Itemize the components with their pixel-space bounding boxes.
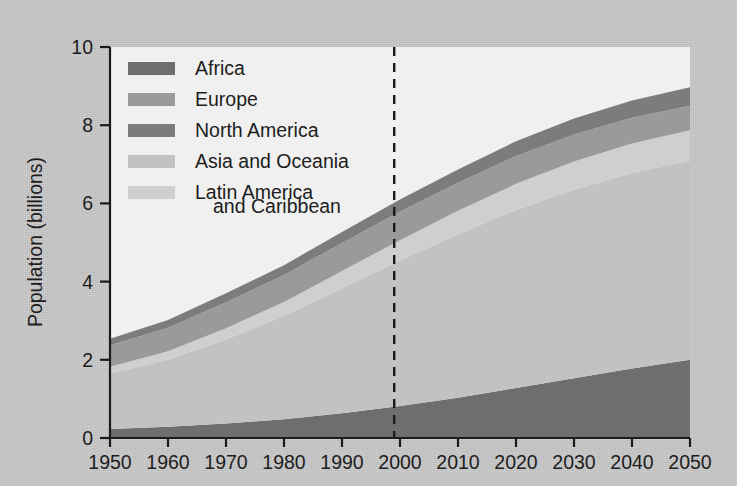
x-tick-label: 2020 [494, 451, 538, 473]
x-axis-ticks: 1950196019701980199020002010202020302040… [88, 438, 712, 473]
legend-swatch-latin-america [128, 186, 175, 199]
y-tick-label: 10 [71, 36, 93, 58]
x-tick-label: 2030 [552, 451, 596, 473]
x-tick-label: 2010 [436, 451, 480, 473]
x-tick-label: 1950 [88, 451, 132, 473]
y-tick-label: 4 [82, 271, 93, 293]
legend-label-asia-and-oceania: Asia and Oceania [195, 150, 349, 172]
chart-canvas: 0246810 19501960197019801990200020102020… [0, 0, 737, 486]
legend-swatch-europe [128, 93, 175, 106]
legend-label-europe: Europe [195, 88, 258, 110]
legend-swatch-africa [128, 62, 175, 75]
x-tick-label: 2050 [668, 451, 712, 473]
legend-label-latin-america-line2: and Caribbean [213, 195, 341, 217]
x-tick-label: 2000 [378, 451, 422, 473]
legend-label-africa: Africa [195, 57, 245, 79]
y-axis-ticks: 0246810 [71, 36, 110, 449]
legend-swatch-asia-and-oceania [128, 155, 175, 168]
y-tick-label: 2 [82, 349, 93, 371]
y-axis-title: Population (billions) [24, 157, 46, 327]
x-tick-label: 1990 [320, 451, 364, 473]
x-tick-label: 2040 [610, 451, 654, 473]
y-tick-label: 6 [82, 192, 93, 214]
x-tick-label: 1980 [262, 451, 306, 473]
y-tick-label: 0 [82, 427, 93, 449]
x-tick-label: 1970 [204, 451, 248, 473]
population-stacked-area-figure: 0246810 19501960197019801990200020102020… [0, 0, 737, 486]
legend-label-north-america: North America [195, 119, 319, 141]
y-tick-label: 8 [82, 114, 93, 136]
x-tick-label: 1960 [146, 451, 190, 473]
legend-swatch-north-america [128, 124, 175, 137]
